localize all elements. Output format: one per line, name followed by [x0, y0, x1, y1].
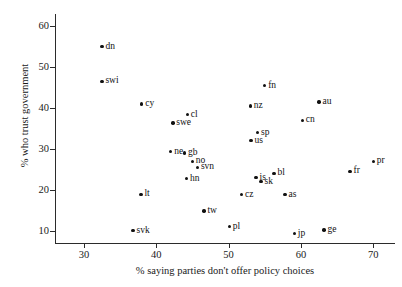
data-point-cz[interactable] [240, 193, 243, 196]
x-tick-70 [373, 244, 374, 248]
data-point-nz[interactable] [249, 104, 252, 107]
data-point-label-sk: sk [265, 177, 273, 187]
data-point-pl[interactable] [228, 225, 231, 228]
x-tick-60 [301, 244, 302, 248]
x-tick-label-30: 30 [64, 249, 104, 260]
data-point-label-us: us [254, 136, 262, 146]
x-tick-50 [229, 244, 230, 248]
data-point-cn[interactable] [301, 119, 304, 122]
x-axis-line [55, 243, 395, 244]
data-point-ge[interactable] [322, 228, 325, 231]
data-point-label-sp: sp [261, 128, 269, 138]
data-point-cl[interactable] [186, 113, 189, 116]
data-point-label-ne: ne [174, 147, 183, 157]
data-point-sp[interactable] [256, 131, 259, 134]
data-point-label-swi: swi [105, 76, 118, 86]
data-point-as[interactable] [283, 193, 286, 196]
y-tick-label-10: 10 [9, 226, 49, 236]
data-point-label-cy: cy [145, 99, 154, 109]
x-tick-label-50: 50 [209, 249, 249, 260]
data-point-swi[interactable] [100, 80, 103, 83]
x-tick-label-40: 40 [136, 249, 176, 260]
data-point-jp[interactable] [293, 232, 296, 235]
data-point-cy[interactable] [140, 102, 143, 105]
data-point-fr[interactable] [348, 170, 351, 173]
data-point-is[interactable] [254, 176, 257, 179]
data-point-pr[interactable] [372, 160, 375, 163]
scatter-chart: 102030405060 3040506070 dnswicyclswenegb… [0, 0, 402, 287]
data-point-dn[interactable] [100, 45, 103, 48]
data-point-ne[interactable] [169, 150, 172, 153]
data-point-label-nz: nz [254, 101, 263, 111]
x-tick-label-70: 70 [353, 249, 393, 260]
data-point-label-cn: cn [306, 115, 315, 125]
data-point-bl[interactable] [272, 172, 275, 175]
data-point-label-hn: hn [190, 174, 200, 184]
data-point-label-svk: svk [137, 226, 150, 236]
plot-area: dnswicyclswenegbnosvnhnlttwsvkplczisskbl… [55, 14, 395, 243]
x-tick-label-60: 60 [281, 249, 321, 260]
x-tick-30 [84, 244, 85, 248]
data-point-label-dn: dn [105, 42, 115, 52]
data-point-label-jp: jp [298, 229, 305, 239]
data-point-label-lt: lt [144, 189, 149, 199]
data-point-label-cz: cz [245, 190, 253, 200]
data-point-us[interactable] [249, 139, 252, 142]
y-axis-title: % who trust government [19, 6, 30, 226]
data-point-label-au: au [322, 97, 331, 107]
x-tick-40 [156, 244, 157, 248]
data-point-hn[interactable] [185, 177, 188, 180]
x-axis-title: % saying parties don't offer policy choi… [55, 265, 395, 276]
data-point-label-fr: fr [354, 166, 360, 176]
data-point-label-cl: cl [191, 110, 198, 120]
data-point-gb[interactable] [183, 151, 186, 154]
data-point-label-fn: fn [268, 81, 276, 91]
data-point-svn[interactable] [196, 166, 199, 169]
data-point-svk[interactable] [131, 229, 134, 232]
data-point-label-svn: svn [201, 162, 214, 172]
data-point-label-ge: ge [328, 225, 337, 235]
data-point-no[interactable] [191, 160, 194, 163]
data-point-tw[interactable] [202, 209, 205, 212]
data-point-label-bl: bl [278, 168, 285, 178]
data-point-label-tw: tw [207, 206, 217, 216]
data-point-au[interactable] [317, 100, 320, 103]
data-point-label-swe: swe [176, 118, 191, 128]
data-point-fn[interactable] [263, 84, 266, 87]
data-point-lt[interactable] [139, 193, 142, 196]
data-point-sk[interactable] [259, 180, 262, 183]
data-point-swe[interactable] [171, 121, 174, 124]
data-point-label-pr: pr [377, 156, 385, 166]
data-point-label-pl: pl [233, 222, 240, 232]
data-point-label-as: as [288, 190, 296, 200]
